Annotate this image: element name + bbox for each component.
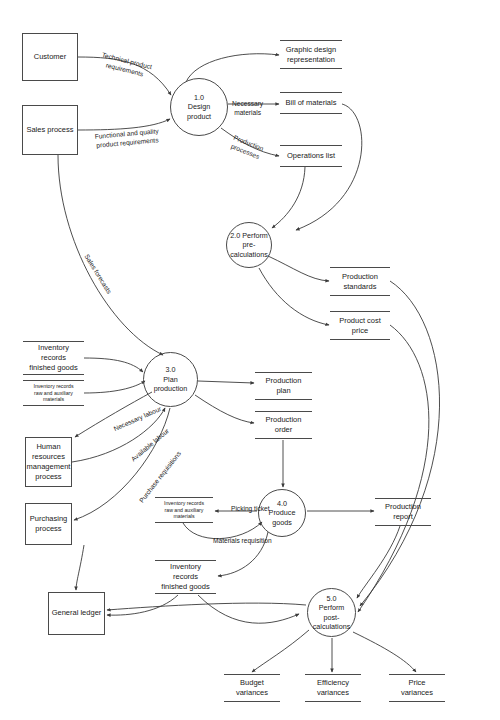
- process-p1: 1.0 Design product: [170, 78, 228, 136]
- datastore-production-standards: Production standards: [330, 267, 390, 296]
- flow-operations-to-precalc: [272, 167, 305, 228]
- process-label: 2.0 Perform pre- calculations: [230, 231, 268, 259]
- datastore-label: Inventory records raw and auxiliary mate…: [33, 383, 73, 403]
- flow-postcalc-to-budget: [252, 630, 309, 672]
- datastore-label: Inventory records finished goods: [161, 562, 209, 591]
- datastore-inventory-raw-left: Inventory records raw and auxiliary mate…: [23, 380, 84, 406]
- external-entity-label: Sales process: [26, 125, 73, 135]
- external-entity-hr-process: Human resources management process: [25, 437, 72, 487]
- flow-available-labour: [72, 408, 165, 462]
- datastore-label: Product cost price: [339, 316, 381, 336]
- external-entity-label: Customer: [34, 52, 67, 62]
- datastore-production-order: Production order: [255, 411, 312, 439]
- flow-plan-to-production-plan: [198, 381, 254, 383]
- flow-report-to-postcalc: [357, 526, 400, 598]
- flow-necessary-labour: [75, 392, 152, 437]
- flow-purchasing-to-ledger: [76, 545, 84, 590]
- flow-postcalc-to-ledger: [107, 603, 306, 610]
- datastore-label: Production report: [385, 502, 421, 522]
- datastore-operations-list: Operations list: [280, 145, 342, 167]
- datastore-label: Graphic design representation: [286, 45, 336, 65]
- datastore-graphic-design: Graphic design representation: [280, 40, 342, 69]
- datastore-product-cost-price: Product cost price: [330, 311, 390, 340]
- datastore-label: Operations list: [287, 151, 335, 161]
- datastore-label: Budget variances: [236, 678, 268, 698]
- external-entity-label: Human resources management process: [27, 442, 71, 483]
- datastore-label: Price variances: [401, 678, 433, 698]
- flow-inventory-to-ledger: [107, 595, 178, 615]
- flow-plan-to-production-order: [195, 395, 254, 423]
- flow-technical-product-requirements: [78, 57, 171, 95]
- datastore-label: Production plan: [266, 376, 302, 396]
- process-label: 5.0 Perform post- calculations: [310, 594, 353, 631]
- flow-functional-quality-requirements: [78, 119, 170, 130]
- process-p2: 2.0 Perform pre- calculations: [226, 222, 272, 268]
- flow-costprice-to-postcalc: [358, 325, 429, 612]
- flow-postcalc-to-price: [353, 632, 416, 672]
- flow-inventory-to-postcalc: [198, 595, 299, 623]
- datastore-label: Inventory records finished goods: [29, 343, 77, 372]
- datastore-efficiency-variances: Efficiency variances: [305, 674, 361, 702]
- flow-bom-to-precalc: [296, 104, 362, 230]
- process-p5: 5.0 Perform post- calculations: [307, 588, 356, 637]
- external-entity-purchasing-process: Purchasing process: [25, 503, 72, 545]
- datastore-inventory-finished-top: Inventory records finished goods: [23, 341, 84, 375]
- process-label: 3.0 Plan production: [154, 365, 188, 393]
- process-p4: 4.0 Produce goods: [258, 489, 306, 537]
- datastore-inventory-raw-mid: Inventory records raw and auxiliary mate…: [155, 497, 213, 523]
- dfd-canvas: CustomerSales processHuman resources man…: [0, 0, 500, 720]
- flow-sales-forecasts: [58, 155, 163, 355]
- datastore-label: Production order: [266, 415, 302, 435]
- external-entity-general-ledger: General ledger: [48, 592, 105, 635]
- datastore-bill-of-materials: Bill of materials: [280, 92, 342, 114]
- datastore-inventory-finished-bottom: Inventory records finished goods: [155, 560, 216, 594]
- flow-precalc-to-standards: [268, 256, 329, 281]
- flow-inventory-raw-to-plan: [84, 381, 145, 393]
- datastore-production-report: Production report: [375, 498, 431, 526]
- external-entity-label: Purchasing process: [30, 514, 68, 534]
- datastore-label: Efficiency variances: [317, 678, 349, 698]
- external-entity-sales-process: Sales process: [22, 105, 78, 155]
- datastore-production-plan: Production plan: [255, 372, 312, 400]
- process-label: 4.0 Produce goods: [261, 499, 303, 527]
- external-entity-customer: Customer: [22, 33, 78, 81]
- flow-design-to-operations: [221, 128, 279, 156]
- datastore-budget-variances: Budget variances: [224, 674, 280, 702]
- process-p3: 3.0 Plan production: [143, 352, 198, 407]
- datastore-label: Bill of materials: [286, 98, 337, 108]
- flow-materials-requisition: [183, 522, 262, 539]
- flow-precalc-to-costprice: [259, 268, 329, 325]
- external-entity-label: General ledger: [52, 608, 102, 618]
- process-label: 1.0 Design product: [187, 93, 211, 121]
- datastore-label: Inventory records raw and auxiliary mate…: [164, 500, 204, 520]
- flow-inventory-finished-to-plan: [84, 358, 143, 372]
- datastore-label: Production standards: [342, 272, 378, 292]
- datastore-price-variances: Price variances: [389, 674, 445, 702]
